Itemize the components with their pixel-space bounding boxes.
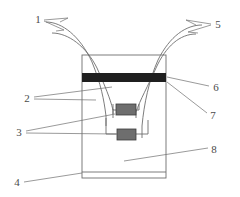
callout-label-2: 2 (24, 92, 30, 104)
callout-label-1: 1 (35, 13, 41, 25)
figure-container: 1 2 3 4 5 6 7 8 (0, 0, 240, 197)
leader-line-7 (167, 82, 207, 113)
leader-line-1a (44, 18, 68, 22)
callout-label-8: 8 (211, 143, 217, 155)
sensor-block-lower (117, 129, 136, 140)
callout-label-3: 3 (16, 126, 22, 138)
callout-label-5: 5 (215, 18, 221, 30)
sensor-block-upper (116, 104, 136, 115)
callout-label-7: 7 (210, 109, 216, 121)
leader-line-4 (24, 173, 82, 182)
callout-label-6: 6 (213, 81, 219, 93)
leader-line-5a (186, 20, 211, 25)
dark-band (82, 73, 166, 82)
technical-diagram: 1 2 3 4 5 6 7 8 (0, 0, 240, 197)
callout-label-4: 4 (14, 176, 20, 188)
leader-line-6 (167, 77, 209, 86)
